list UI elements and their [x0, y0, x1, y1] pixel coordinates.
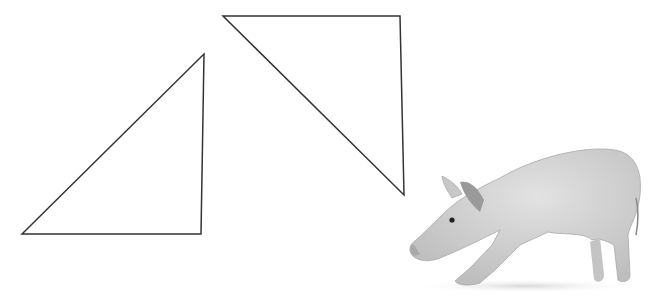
diagram-canvas — [0, 0, 658, 308]
piglet-image — [410, 149, 641, 293]
triangle-left — [22, 54, 204, 234]
triangle-right — [223, 16, 404, 195]
